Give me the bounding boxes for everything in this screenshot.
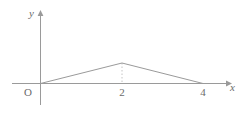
y-axis-label: y — [29, 8, 34, 19]
function-curve — [41, 63, 204, 84]
y-axis-arrowhead — [38, 10, 44, 16]
math-figure: y x O 2 4 — [0, 0, 250, 114]
x-axis-label: x — [230, 82, 235, 93]
x-tick-label-4: 4 — [197, 87, 209, 98]
origin-label: O — [24, 87, 32, 98]
y-axis — [38, 10, 44, 105]
x-tick-label-2: 2 — [116, 87, 128, 98]
